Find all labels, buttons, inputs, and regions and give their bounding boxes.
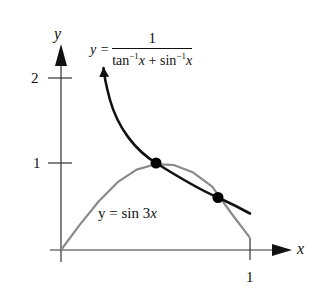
equation-numerator: 1	[148, 30, 156, 48]
den-tan-sup: −1	[129, 51, 139, 61]
inverse-trig-curve	[104, 68, 251, 214]
sin-3x-label: y = sin 3x	[98, 205, 157, 222]
x-tick-label-1: 1	[246, 270, 254, 285]
intersection-point-1	[151, 158, 162, 169]
den-x2: x	[186, 53, 192, 68]
intersection-point-2	[213, 192, 224, 203]
y-tick-label-2: 2	[31, 71, 39, 86]
inverse-trig-equation-label: y = 1 tan−1x + sin−1x	[90, 30, 192, 69]
x-axis-arrow-icon	[272, 244, 292, 256]
den-sin-sup: −1	[176, 51, 186, 61]
sin-label-prefix: y = sin 3	[98, 205, 150, 221]
equation-fraction: 1 tan−1x + sin−1x	[112, 30, 192, 69]
equation-lhs: y =	[90, 42, 109, 58]
den-plus: +	[145, 53, 160, 68]
sin-label-var: x	[150, 205, 157, 221]
den-tan: tan	[112, 53, 129, 68]
den-sin: sin	[160, 53, 176, 68]
x-axis-label: x	[297, 241, 304, 257]
y-axis-arrow-icon	[55, 44, 67, 66]
y-axis-label: y	[54, 26, 61, 42]
y-tick-label-1: 1	[33, 156, 41, 171]
equation-denominator: tan−1x + sin−1x	[112, 48, 192, 69]
